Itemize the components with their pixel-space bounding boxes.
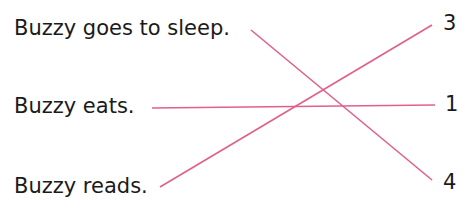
left-item-sleep: Buzzy goes to sleep. bbox=[14, 18, 230, 39]
right-item-4: 4 bbox=[443, 172, 456, 193]
left-item-eats: Buzzy eats. bbox=[14, 96, 135, 117]
right-item-1: 1 bbox=[445, 94, 458, 115]
right-item-3: 3 bbox=[443, 13, 456, 34]
left-item-reads: Buzzy reads. bbox=[14, 176, 148, 197]
